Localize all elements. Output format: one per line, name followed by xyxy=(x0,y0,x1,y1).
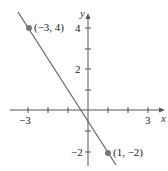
plotted-line xyxy=(18,12,116,165)
y-axis xyxy=(85,13,91,166)
point-b-label: (1, −2) xyxy=(113,146,143,159)
y-axis-arrow-icon xyxy=(86,13,91,19)
y-tick-label-4: 4 xyxy=(75,22,81,34)
y-tick-label-neg2: −2 xyxy=(71,146,83,158)
x-axis-label: x xyxy=(160,112,166,124)
y-axis-label: y xyxy=(79,7,85,19)
point-a-marker xyxy=(26,25,32,31)
chart-canvas: (−3, 4) (1, −2) −3 3 x 4 2 −2 y xyxy=(0,0,168,171)
y-tick-label-2: 2 xyxy=(75,63,81,75)
point-a-label: (−3, 4) xyxy=(34,21,64,34)
x-tick-label-3: 3 xyxy=(145,114,151,126)
x-tick-label-neg3: −3 xyxy=(19,114,31,126)
point-b-marker xyxy=(105,150,111,156)
